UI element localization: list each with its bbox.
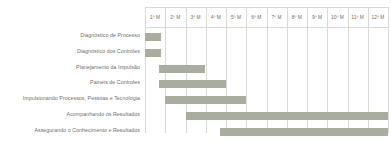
task-label: Acompanhando os Resultados <box>0 111 140 118</box>
gantt-bar <box>145 33 161 41</box>
task-label: Planejamento da Impulsão <box>0 64 140 71</box>
task-label: Diagnóstico de Processo <box>0 32 140 39</box>
gantt-bar <box>186 112 389 120</box>
month-header-cell: 6º M <box>246 7 266 27</box>
task-label: Assegurando o Conhecimento e Resultados <box>0 127 140 134</box>
gantt-bars-layer <box>145 28 388 133</box>
task-label-column: Diagnóstico de ProcessoDiagnóstico dos C… <box>0 0 143 142</box>
month-header-cell: 11º M <box>348 7 368 27</box>
month-header-cell: 9º M <box>307 7 327 27</box>
gantt-bar <box>159 80 226 88</box>
gantt-bar <box>165 96 246 104</box>
month-header-cell: 7º M <box>267 7 287 27</box>
gantt-plot-area: 1º M2º M3º M4º M5º M6º M7º M8º M9º M10º … <box>145 7 388 133</box>
month-header-cell: 8º M <box>287 7 307 27</box>
task-label: Impulsionando Processos, Pessoas e Tecno… <box>0 95 140 102</box>
month-header-cell: 12º M <box>368 7 388 27</box>
gantt-bar <box>220 128 388 136</box>
month-header-row: 1º M2º M3º M4º M5º M6º M7º M8º M9º M10º … <box>145 7 388 27</box>
task-label: Diagnóstico dos Controles <box>0 48 140 55</box>
month-header-cell: 3º M <box>186 7 206 27</box>
month-header-cell: 5º M <box>226 7 246 27</box>
task-label: Painéis de Controles <box>0 79 140 86</box>
month-header-cell: 1º M <box>145 7 165 27</box>
gantt-bar <box>145 49 161 57</box>
gantt-chart: Diagnóstico de ProcessoDiagnóstico dos C… <box>0 0 391 142</box>
month-header-cell: 2º M <box>165 7 185 27</box>
month-header-cell: 10º M <box>327 7 347 27</box>
gantt-bar <box>159 65 205 73</box>
month-header-cell: 4º M <box>206 7 226 27</box>
grid-line-month-12 <box>388 7 389 133</box>
